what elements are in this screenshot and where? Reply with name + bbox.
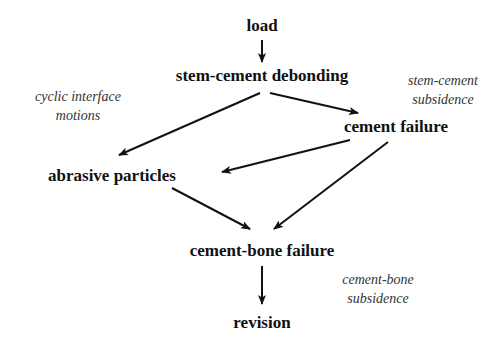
annotation-line: motions	[35, 107, 121, 126]
annotation-line: subsidence	[408, 91, 478, 110]
node-cement-bone-failure: cement-bone failure	[190, 242, 335, 259]
edge-abrasive-cbfailure	[172, 188, 250, 229]
node-cement-failure: cement failure	[344, 118, 448, 135]
node-stem-cement-debonding: stem-cement debonding	[176, 67, 348, 84]
node-revision: revision	[233, 314, 290, 331]
edge-cementfailure-abrasive	[222, 140, 350, 172]
edge-debond-cementfailure	[270, 93, 358, 113]
annotation-cement-bone-subsidence: cement-bone subsidence	[342, 271, 414, 309]
node-load: load	[246, 17, 277, 34]
annotation-line: subsidence	[342, 290, 414, 309]
annotation-cyclic-interface-motions: cyclic interface motions	[35, 88, 121, 126]
edge-debond-abrasive	[119, 93, 260, 155]
node-abrasive-particles: abrasive particles	[48, 167, 176, 184]
annotation-line: cyclic interface	[35, 88, 121, 107]
annotation-stem-cement-subsidence: stem-cement subsidence	[408, 72, 478, 110]
annotation-line: cement-bone	[342, 271, 414, 290]
annotation-line: stem-cement	[408, 72, 478, 91]
